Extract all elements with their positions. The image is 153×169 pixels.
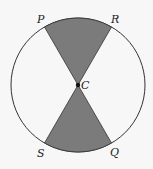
- center-point: [76, 83, 80, 87]
- shaded-sector-bottom: [45, 85, 112, 152]
- circle-diagram: C P R S Q: [0, 0, 153, 169]
- label-s: S: [37, 147, 45, 160]
- label-r: R: [110, 13, 119, 26]
- label-q: Q: [110, 146, 119, 159]
- label-p: P: [36, 13, 45, 26]
- shaded-sector-top: [45, 18, 112, 85]
- circle-svg: C P R S Q: [0, 0, 153, 169]
- label-c: C: [81, 79, 90, 92]
